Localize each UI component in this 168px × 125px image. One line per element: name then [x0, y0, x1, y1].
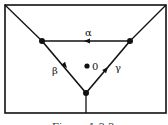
diagram-canvas: α β γ 0 Figure 1.3.3	[0, 0, 168, 125]
label-beta: β	[52, 65, 58, 76]
label-center: 0	[92, 61, 98, 72]
vertex-right	[127, 38, 133, 44]
vertex-left	[39, 38, 45, 44]
figure-caption: Figure 1.3.3	[52, 121, 114, 125]
edge-beta	[42, 41, 86, 93]
edge-outer-right	[130, 5, 166, 41]
label-alpha: α	[85, 27, 92, 38]
label-gamma: γ	[115, 62, 121, 73]
vertex-bottom	[83, 90, 89, 96]
edge-outer-left	[5, 5, 42, 41]
arrow-left-icon	[84, 39, 90, 44]
center-point	[84, 63, 89, 68]
graph-diagram: α β γ 0 Figure 1.3.3	[0, 0, 168, 125]
